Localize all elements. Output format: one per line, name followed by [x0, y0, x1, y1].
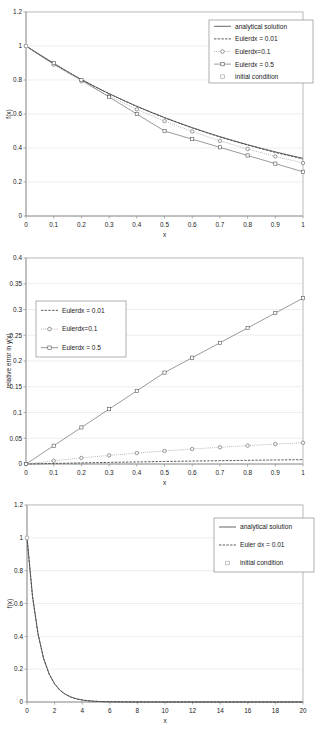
data-point-marker [246, 154, 249, 157]
data-point-marker [108, 408, 111, 411]
data-point-marker [80, 426, 83, 429]
x-tick-label: 16 [244, 707, 252, 714]
y-tick-label: 0.35 [10, 280, 23, 287]
x-tick-label: 0.8 [243, 469, 252, 476]
data-point-marker [52, 459, 55, 462]
x-tick-label: 6 [108, 707, 112, 714]
data-point-marker [274, 311, 277, 314]
x-tick-label: 0.9 [271, 469, 280, 476]
chart-1-x-axis-title: x [163, 231, 167, 238]
series-initial-condition [25, 536, 28, 539]
chart-3-canvas: 00.20.40.60.811.202468101214161820xf(x)a… [0, 494, 330, 740]
x-tick-label: 1 [301, 469, 305, 476]
y-tick-label: 0.8 [13, 76, 22, 83]
y-tick-label: 0.8 [14, 567, 23, 574]
data-point-marker [246, 326, 249, 329]
y-tick-label: 0.4 [13, 144, 22, 151]
x-tick-label: 0.8 [243, 221, 252, 228]
chart-1-legend: analytical solutionEulerdx = 0.01Eulerdx… [209, 20, 313, 83]
legend-label: Eulerdx = 0.01 [235, 35, 278, 42]
legend-label: Eulerdx=0.1 [235, 48, 271, 55]
y-tick-label: 0.4 [14, 633, 23, 640]
x-tick-label: 0.3 [105, 469, 114, 476]
data-point-marker [274, 442, 277, 445]
data-point-marker [80, 78, 83, 81]
x-tick-label: 0.1 [49, 221, 58, 228]
data-point-marker [218, 341, 221, 344]
x-tick-label: 0.6 [188, 221, 197, 228]
data-point-marker [135, 108, 138, 111]
legend-key-marker [48, 346, 51, 349]
chart-3-y-axis-title: f(x) [6, 599, 14, 608]
data-point-marker [135, 112, 138, 115]
chart-1-y-axis-title: f(x) [5, 109, 13, 118]
legend-key-marker [48, 327, 52, 331]
legend-label: initial condition [235, 73, 279, 80]
y-tick-label: 0.3 [13, 306, 22, 313]
legend-label: analytical solution [235, 23, 287, 31]
y-tick-label: 0 [18, 212, 22, 219]
x-tick-label: 0.4 [132, 469, 141, 476]
x-tick-label: 0.5 [160, 469, 169, 476]
data-point-marker [301, 297, 304, 300]
y-tick-label: 0.2 [13, 357, 22, 364]
data-point-marker [301, 441, 304, 444]
y-tick-label: 1.2 [14, 501, 23, 508]
x-tick-label: 10 [161, 707, 169, 714]
data-point-marker [52, 61, 55, 64]
data-point-marker [80, 456, 83, 459]
x-tick-label: 1 [301, 221, 305, 228]
chart-1-canvas: 00.20.40.60.811.200.10.20.30.40.50.60.70… [0, 0, 330, 247]
data-point-marker [135, 451, 138, 454]
y-tick-label: 0.4 [13, 254, 22, 261]
data-point-marker [107, 454, 110, 457]
legend-key-marker [221, 75, 225, 79]
data-point-marker [218, 139, 221, 142]
data-point-marker [191, 356, 194, 359]
chart-3-x-axis-title: x [163, 717, 167, 724]
x-tick-label: 0 [24, 221, 28, 228]
x-tick-label: 18 [272, 707, 280, 714]
data-point-marker [191, 130, 194, 133]
chart-panel-2: 00.050.10.150.20.250.30.350.400.10.20.30… [0, 247, 330, 494]
chart-panel-1: 00.20.40.60.811.200.10.20.30.40.50.60.70… [0, 0, 330, 247]
data-point-marker [246, 147, 249, 150]
y-tick-label: 0.6 [14, 600, 23, 607]
x-tick-label: 0.1 [49, 469, 58, 476]
legend-key-marker [226, 561, 230, 565]
x-tick-label: 20 [299, 707, 307, 714]
y-tick-label: 1 [18, 42, 22, 49]
x-tick-label: 0.6 [188, 469, 197, 476]
legend-label: Eulerdx = 0.01 [62, 307, 105, 314]
x-tick-label: 2 [53, 707, 57, 714]
y-tick-label: 0.2 [14, 665, 23, 672]
data-point-marker [301, 161, 304, 164]
y-tick-label: 0.2 [13, 178, 22, 185]
legend-key-marker [221, 50, 225, 54]
x-tick-label: 0.3 [105, 221, 114, 228]
legend-label: Euler dx = 0.01 [240, 541, 285, 548]
data-point-marker [163, 449, 166, 452]
legend-label: Eulerdx=0.1 [62, 325, 98, 332]
data-point-marker [163, 119, 166, 122]
y-tick-label: 0.6 [13, 110, 22, 117]
x-tick-label: 0.7 [215, 469, 224, 476]
data-point-marker [108, 95, 111, 98]
chart-2-y-axis-title: relative error in y(x) [5, 333, 13, 388]
figure-page: 00.20.40.60.811.200.10.20.30.40.50.60.70… [0, 0, 330, 740]
data-point-marker [135, 389, 138, 392]
x-tick-label: 12 [189, 707, 197, 714]
x-tick-label: 0.4 [132, 221, 141, 228]
data-point-marker [24, 462, 27, 465]
data-point-marker [218, 146, 221, 149]
x-tick-label: 0 [25, 707, 29, 714]
y-tick-label: 0.05 [10, 435, 23, 442]
data-point-marker [274, 162, 277, 165]
chart-2-x-axis-title: x [163, 479, 167, 486]
chart-2-canvas: 00.050.10.150.20.250.30.350.400.10.20.30… [0, 247, 330, 494]
x-tick-label: 0.2 [77, 221, 86, 228]
data-point-marker [52, 444, 55, 447]
legend-key-marker [221, 62, 224, 65]
data-point-marker [163, 129, 166, 132]
y-tick-label: 0 [18, 460, 22, 467]
